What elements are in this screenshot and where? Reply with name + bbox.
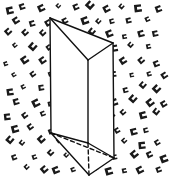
prism-edge — [113, 43, 114, 158]
prism-right-face — [88, 43, 114, 158]
prism-figure-svg — [0, 0, 169, 191]
prism-edge — [50, 18, 51, 133]
figure-root — [0, 0, 169, 191]
